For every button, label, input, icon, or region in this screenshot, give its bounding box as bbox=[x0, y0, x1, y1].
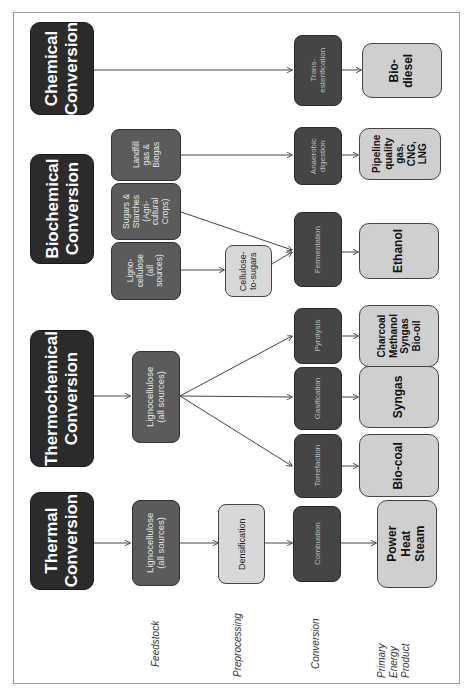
conversion-torrefaction-label: Torrefaction bbox=[313, 445, 322, 487]
product-ethanol: Ethanol bbox=[359, 223, 439, 279]
feedstock-ligno-thermochem-label: Lignocellulose (all sources) bbox=[145, 367, 167, 427]
category-biochemical-conversion: Biochemical Conversion bbox=[30, 154, 94, 264]
conversion-pyrolysis-label: Pyrolysis bbox=[313, 320, 322, 352]
stage-label-conversion: Conversion bbox=[310, 605, 324, 669]
conversion-torrefaction: Torrefaction bbox=[294, 434, 342, 498]
product-pyrolysis-label: Charcoal Methanol Syngas Bio-oil bbox=[376, 314, 422, 358]
product-pyrolysis-products: Charcoal Methanol Syngas Bio-oil bbox=[359, 305, 439, 367]
product-power-label: Power Heat Steam bbox=[386, 526, 427, 562]
stage-label-feedstock: Feedstock bbox=[150, 607, 164, 667]
feedstock-sugars-label: Sugars & Starches (Agri- cultural Crops) bbox=[122, 194, 171, 229]
category-biochemical-label: Biochemical Conversion bbox=[42, 159, 81, 259]
product-pipeline-gas-label: Pipeline quality gas, CNG, LNG bbox=[371, 135, 429, 173]
product-ethanol-label: Ethanol bbox=[392, 229, 406, 273]
feedstock-lignocellulose-thermal: Lignocellulose (all sources) bbox=[132, 500, 180, 586]
conversion-gasification: Gasification bbox=[294, 367, 342, 430]
preprocessing-densification: Densification bbox=[218, 504, 265, 584]
product-syngas: Syngas bbox=[359, 366, 439, 428]
conversion-combustion-label: Combustion bbox=[312, 523, 321, 566]
category-chemical-conversion: Chemical Conversion bbox=[30, 22, 94, 115]
conversion-fermentation-label: Fermentation bbox=[313, 226, 322, 273]
category-thermal-label: Thermal Conversion bbox=[42, 494, 81, 588]
category-thermal-conversion: Thermal Conversion bbox=[30, 492, 94, 590]
feedstock-landfill-label: Landfill gas & Biogas bbox=[131, 142, 160, 169]
feedstock-lignocellulose-bio: Ligno- cellulose (all sources) bbox=[111, 242, 181, 300]
product-biodiesel: Bio- diesel bbox=[362, 43, 442, 98]
conversion-transesterification: Trans- esterification bbox=[294, 35, 342, 106]
product-syngas-label: Syngas bbox=[392, 376, 406, 419]
feedstock-lignocellulose-thermochemical: Lignocellulose (all sources) bbox=[132, 351, 180, 443]
preprocessing-cellulose-to-sugars: Cellulose- to-sugars bbox=[225, 245, 272, 297]
product-biocoal-label: Bio-coal bbox=[392, 442, 406, 489]
stage-label-preprocessing: Preprocessing bbox=[232, 597, 246, 677]
feedstock-landfill-gas: Landfill gas & Biogas bbox=[111, 129, 181, 181]
preprocessing-densification-label: Densification bbox=[236, 518, 246, 570]
category-thermochemical-conversion: Thermochemical Conversion bbox=[30, 330, 94, 467]
conversion-anaerobic-label: Anaerobic digestion bbox=[309, 138, 327, 174]
feedstock-sugars-starches: Sugars & Starches (Agri- cultural Crops) bbox=[111, 183, 181, 240]
product-power-heat-steam: Power Heat Steam bbox=[377, 500, 437, 588]
conversion-combustion: Combustion bbox=[293, 506, 341, 582]
preprocessing-cellulose-label: Cellulose- to-sugars bbox=[238, 251, 259, 291]
feedstock-ligno-bio-label: Ligno- cellulose (all sources) bbox=[126, 254, 165, 287]
conversion-pyrolysis: Pyrolysis bbox=[294, 308, 342, 364]
product-biocoal: Bio-coal bbox=[359, 434, 439, 497]
product-pipeline-gas: Pipeline quality gas, CNG, LNG bbox=[359, 128, 441, 180]
category-thermochemical-label: Thermochemical Conversion bbox=[42, 331, 81, 466]
conversion-trans-label: Trans- esterification bbox=[309, 48, 327, 93]
conversion-gasification-label: Gasification bbox=[313, 378, 322, 420]
stage-label-primary-energy-product: Primary Energy Product bbox=[376, 620, 414, 678]
feedstock-ligno-thermal-label: Lignocellulose (all sources) bbox=[145, 513, 167, 573]
product-biodiesel-label: Bio- diesel bbox=[388, 53, 416, 87]
category-chemical-label: Chemical Conversion bbox=[42, 22, 81, 116]
conversion-anaerobic-digestion: Anaerobic digestion bbox=[294, 127, 342, 185]
conversion-fermentation: Fermentation bbox=[294, 212, 342, 287]
